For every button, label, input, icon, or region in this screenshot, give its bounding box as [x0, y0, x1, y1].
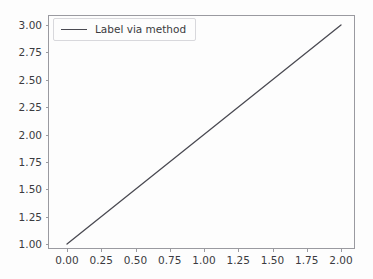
- matplotlib-figure: 1.00 1.25 1.50 1.75 2.00 2.25 2.50 2.75 …: [0, 0, 373, 279]
- y-tick-mark: [46, 52, 50, 53]
- y-tick-label: 1.75: [19, 157, 42, 168]
- plot-area: [49, 16, 354, 248]
- y-tick-mark: [46, 107, 50, 108]
- data-series-line: [67, 25, 341, 244]
- y-tick-label: 2.75: [19, 47, 42, 58]
- y-tick-label: 2.00: [19, 129, 42, 140]
- x-tick-label: 1.50: [261, 255, 284, 266]
- x-tick-label: 0.25: [90, 255, 113, 266]
- x-tick-mark: [67, 248, 68, 252]
- y-tick-mark: [46, 80, 50, 81]
- plot-axes: 1.00 1.25 1.50 1.75 2.00 2.25 2.50 2.75 …: [48, 15, 355, 249]
- x-tick-label: 0.00: [55, 255, 78, 266]
- y-tick-label: 2.50: [19, 75, 42, 86]
- x-tick-mark: [273, 248, 274, 252]
- y-tick-label: 3.00: [19, 20, 42, 31]
- x-tick-label: 0.75: [158, 255, 181, 266]
- y-tick-mark: [46, 189, 50, 190]
- y-tick-label: 1.25: [19, 211, 42, 222]
- legend[interactable]: Label via method: [53, 18, 196, 41]
- x-tick-label: 1.25: [227, 255, 250, 266]
- x-tick-mark: [136, 248, 137, 252]
- y-tick-mark: [46, 135, 50, 136]
- x-tick-label: 2.00: [329, 255, 352, 266]
- y-tick-label: 1.00: [19, 239, 42, 250]
- x-tick-mark: [307, 248, 308, 252]
- y-tick-mark: [46, 162, 50, 163]
- data-line-svg: [49, 16, 356, 250]
- x-tick-label: 1.75: [295, 255, 318, 266]
- x-tick-mark: [170, 248, 171, 252]
- y-tick-mark: [46, 217, 50, 218]
- y-tick-mark: [46, 244, 50, 245]
- y-tick-label: 1.50: [19, 184, 42, 195]
- x-tick-label: 0.50: [124, 255, 147, 266]
- y-tick-mark: [46, 25, 50, 26]
- x-tick-mark: [238, 248, 239, 252]
- x-tick-mark: [341, 248, 342, 252]
- x-tick-mark: [204, 248, 205, 252]
- y-tick-label: 2.25: [19, 102, 42, 113]
- x-tick-mark: [101, 248, 102, 252]
- legend-entry-label: Label via method: [95, 24, 186, 35]
- legend-line-sample-icon: [61, 29, 87, 30]
- x-tick-label: 1.00: [192, 255, 215, 266]
